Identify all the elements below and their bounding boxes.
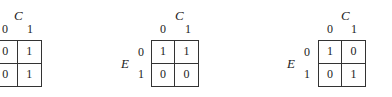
row-variable-label: E bbox=[121, 57, 129, 70]
column-label-0: 0 bbox=[0, 23, 11, 35]
row-label-1: 1 bbox=[301, 68, 313, 80]
cell-r0-c0: 0 bbox=[0, 41, 18, 64]
column-variable-label: C bbox=[14, 9, 23, 22]
cell-r1-c1: 1 bbox=[342, 64, 365, 87]
cell-r0-c1: 1 bbox=[18, 41, 42, 64]
cell-r1-c0: 0 bbox=[319, 64, 342, 87]
column-label-0: 0 bbox=[324, 23, 336, 35]
kmap-3: C 0 1 E 0 1 1 0 0 1 bbox=[285, 0, 385, 97]
row-label-1: 1 bbox=[135, 68, 147, 80]
cell-r1-c0: 0 bbox=[0, 64, 18, 87]
column-label-1: 1 bbox=[24, 23, 36, 35]
kmap-2: C 0 1 E 0 1 1 1 0 0 bbox=[118, 0, 208, 97]
column-label-1: 1 bbox=[182, 23, 194, 35]
kmap-1: C 0 1 0 1 0 1 bbox=[0, 0, 50, 97]
cell-r1-c1: 1 bbox=[18, 64, 42, 87]
row-label-0: 0 bbox=[135, 46, 147, 58]
column-variable-label: C bbox=[175, 9, 184, 22]
kmap-grid: 0 1 0 1 bbox=[0, 40, 42, 87]
column-label-0: 0 bbox=[157, 23, 169, 35]
cell-r0-c0: 1 bbox=[152, 41, 175, 64]
cell-r1-c1: 0 bbox=[175, 64, 198, 87]
kmap-grid: 1 1 0 0 bbox=[151, 40, 199, 87]
cell-r0-c1: 1 bbox=[175, 41, 198, 64]
row-label-0: 0 bbox=[301, 46, 313, 58]
cell-r0-c0: 1 bbox=[319, 41, 342, 64]
column-variable-label: C bbox=[341, 9, 350, 22]
cell-r0-c1: 0 bbox=[342, 41, 365, 64]
cell-r1-c0: 0 bbox=[152, 64, 175, 87]
kmap-grid: 1 0 0 1 bbox=[318, 40, 366, 87]
column-label-1: 1 bbox=[348, 23, 360, 35]
row-variable-label: E bbox=[287, 57, 295, 70]
